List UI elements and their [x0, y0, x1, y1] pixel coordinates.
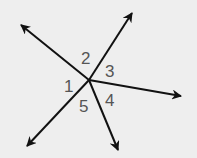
- angle-diagram: 1 2 3 4 5: [0, 0, 197, 158]
- diagram-canvas: 1 2 3 4 5: [0, 0, 197, 158]
- angle-label-2: 2: [81, 49, 90, 68]
- angle-label-3: 3: [105, 62, 114, 81]
- ray-right: [89, 80, 181, 96]
- angle-label-5: 5: [79, 97, 88, 116]
- ray-upper-left: [21, 25, 89, 80]
- rays-group: [21, 13, 181, 150]
- angle-label-4: 4: [105, 91, 114, 110]
- angle-label-1: 1: [64, 77, 73, 96]
